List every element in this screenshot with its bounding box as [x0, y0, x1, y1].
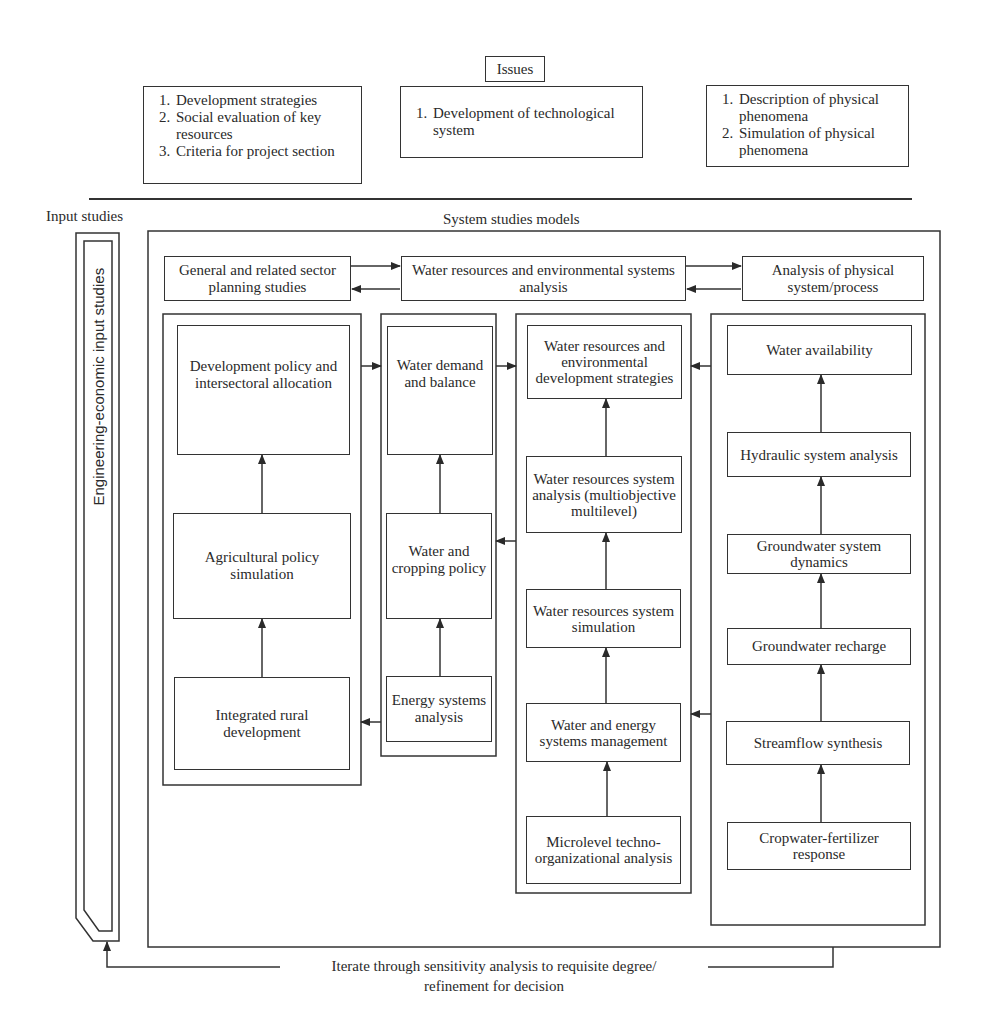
- issues-title-label: Issues: [497, 61, 534, 78]
- microlevel-analysis-box: Microlevel techno-organizational analysi…: [526, 816, 681, 884]
- water-availability-box: Water availability: [727, 325, 912, 375]
- box-label: Energy systems analysis: [391, 692, 487, 726]
- input-studies-label: Input studies: [46, 208, 123, 225]
- box-label: Water resources system simulation: [531, 603, 676, 635]
- box-label: Water availability: [766, 342, 873, 359]
- wr-system-analysis-box: Water resources system analysis (multiob…: [526, 456, 682, 533]
- issue-item: Criteria for project section: [174, 143, 353, 160]
- groundwater-recharge-box: Groundwater recharge: [727, 628, 911, 665]
- physical-system-analysis-box: Analysis of physical system/process: [742, 256, 924, 301]
- issue-item: Development strategies: [174, 92, 353, 109]
- water-env-systems-analysis-box: Water resources and environmental system…: [401, 256, 686, 301]
- water-demand-balance-box: Water demand and balance: [387, 326, 493, 455]
- energy-systems-analysis-box: Energy systems analysis: [386, 676, 492, 742]
- integrated-rural-development-box: Integrated rural development: [174, 677, 350, 770]
- issues-left-box: Development strategies Social evaluation…: [143, 86, 362, 184]
- streamflow-synthesis-box: Streamflow synthesis: [726, 721, 910, 765]
- water-energy-management-box: Water and energy systems management: [526, 703, 681, 762]
- feedback-text-line1: Iterate through sensitivity analysis to …: [283, 958, 705, 975]
- issues-right-box: Description of physical phenomena Simula…: [706, 85, 909, 167]
- box-label: Water resources and environmental develo…: [532, 338, 677, 386]
- box-label: Development policy and intersectoral all…: [182, 358, 345, 392]
- issue-item: Development of technological system: [431, 105, 634, 139]
- issues-center-box: Development of technological system: [400, 86, 643, 158]
- box-label: Cropwater-fertilizer response: [732, 830, 906, 862]
- box-label: Water and cropping policy: [391, 543, 487, 577]
- box-label: Water and energy systems management: [531, 717, 676, 749]
- general-sector-planning-box: General and related sector planning stud…: [164, 256, 351, 301]
- hydraulic-system-analysis-box: Hydraulic system analysis: [727, 432, 911, 477]
- wr-system-simulation-box: Water resources system simulation: [526, 589, 681, 648]
- system-studies-models-label: System studies models: [443, 211, 580, 228]
- feedback-text-line2: refinement for decision: [283, 978, 705, 995]
- box-label: Agricultural policy simulation: [178, 549, 346, 583]
- box-label: Microlevel techno-organizational analysi…: [531, 834, 676, 866]
- box-label: Groundwater recharge: [752, 638, 886, 655]
- issue-item: Simulation of physical phenomena: [737, 125, 900, 159]
- agricultural-policy-simulation-box: Agricultural policy simulation: [173, 513, 351, 619]
- groundwater-system-dynamics-box: Groundwater system dynamics: [727, 534, 911, 574]
- development-policy-box: Development policy and intersectoral all…: [177, 325, 350, 455]
- water-cropping-policy-box: Water and cropping policy: [386, 513, 492, 619]
- box-label: Groundwater system dynamics: [732, 538, 906, 570]
- issue-item: Social evaluation of key resources: [174, 109, 353, 143]
- engineering-economic-input-studies-label: Engineering-economic input studies: [90, 306, 107, 506]
- box-label: Analysis of physical system/process: [747, 262, 919, 296]
- box-label: Streamflow synthesis: [754, 735, 883, 751]
- box-label: Water resources and environmental system…: [406, 262, 681, 296]
- box-label: Hydraulic system analysis: [740, 447, 897, 463]
- box-label: Water resources system analysis (multiob…: [531, 471, 677, 519]
- issue-item: Description of physical phenomena: [737, 91, 900, 125]
- box-label: General and related sector planning stud…: [169, 262, 346, 296]
- box-label: Integrated rural development: [179, 707, 345, 741]
- wr-env-development-strategies-box: Water resources and environmental develo…: [527, 325, 682, 399]
- section-divider: [89, 198, 912, 200]
- issues-title: Issues: [485, 56, 545, 82]
- box-label: Water demand and balance: [392, 357, 488, 391]
- cropwater-fertilizer-response-box: Cropwater-fertilizer response: [727, 822, 911, 870]
